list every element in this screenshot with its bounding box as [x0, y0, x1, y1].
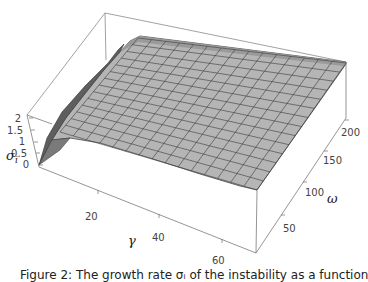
z-tick-0: 0 — [23, 159, 29, 170]
y-tick-200: 200 — [341, 127, 360, 138]
z-tick-2: 2 — [15, 113, 21, 124]
figure-caption: Figure 2: The growth rate σᵢ of the inst… — [20, 268, 368, 282]
x-tick-60: 60 — [212, 255, 225, 266]
z-tick-1: 1 — [19, 136, 25, 147]
x-tick-40: 40 — [152, 232, 165, 243]
x-tick-20: 20 — [85, 211, 98, 222]
y-axis-label: ω — [327, 191, 338, 206]
y-tick-100: 100 — [305, 187, 324, 198]
y-tick-50: 50 — [283, 223, 296, 234]
y-tick-150: 150 — [323, 155, 342, 166]
x-axis-label: γ — [128, 233, 136, 248]
z-tick-1.5: 1.5 — [7, 125, 23, 136]
